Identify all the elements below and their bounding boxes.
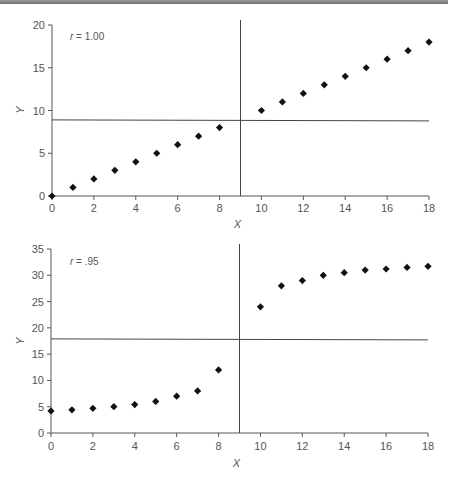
- correlation-annotation: r = 1.00: [70, 31, 105, 42]
- x-tick-label: 18: [422, 440, 434, 452]
- x-tick-label: 4: [133, 202, 139, 214]
- data-point-marker: [47, 407, 54, 414]
- y-tick-label: 30: [32, 269, 44, 281]
- data-point-marker: [110, 403, 117, 410]
- y-tick-label: 0: [38, 427, 44, 439]
- data-point-marker: [257, 303, 264, 310]
- x-tick-label: 10: [255, 202, 267, 214]
- chart-2: 05101520253035024681012141618XYr = .95: [14, 243, 434, 469]
- y-tick-label: 5: [38, 401, 44, 413]
- data-point-marker: [152, 398, 159, 405]
- mean-y-line: [52, 120, 429, 121]
- y-tick-label: 25: [32, 296, 44, 308]
- x-axis-title: X: [232, 457, 241, 469]
- x-tick-label: 8: [216, 202, 222, 214]
- data-point-marker: [195, 133, 202, 140]
- x-tick-label: 16: [380, 440, 392, 452]
- x-axis-title: X: [233, 218, 242, 230]
- data-point-marker: [48, 192, 55, 199]
- y-tick-label: 10: [32, 374, 44, 386]
- data-point-marker: [424, 263, 431, 270]
- x-tick-label: 0: [48, 440, 54, 452]
- x-tick-label: 0: [49, 202, 55, 214]
- x-tick-label: 12: [296, 440, 308, 452]
- data-point-marker: [111, 167, 118, 174]
- mean-y-line: [51, 339, 428, 340]
- y-tick-label: 35: [32, 243, 44, 255]
- x-tick-label: 12: [297, 202, 309, 214]
- data-point-marker: [278, 282, 285, 289]
- data-point-marker: [216, 124, 223, 131]
- data-point-marker: [279, 98, 286, 105]
- data-point-marker: [173, 393, 180, 400]
- x-tick-label: 14: [339, 202, 351, 214]
- data-point-marker: [153, 150, 160, 157]
- data-point-marker: [341, 269, 348, 276]
- y-tick-label: 10: [33, 105, 45, 117]
- data-point-marker: [363, 64, 370, 71]
- data-point-marker: [299, 277, 306, 284]
- x-tick-label: 18: [423, 202, 435, 214]
- y-tick-label: 20: [32, 322, 44, 334]
- data-point-marker: [258, 107, 265, 114]
- y-axis-title: Y: [14, 106, 26, 114]
- data-point-marker: [404, 47, 411, 54]
- y-tick-label: 5: [39, 147, 45, 159]
- x-tick-label: 16: [381, 202, 393, 214]
- x-tick-label: 6: [174, 440, 180, 452]
- data-point-marker: [321, 81, 328, 88]
- data-point-marker: [89, 405, 96, 412]
- data-point-marker: [320, 272, 327, 279]
- x-tick-label: 8: [215, 440, 221, 452]
- y-axis-title: Y: [14, 337, 26, 345]
- data-point-marker: [384, 56, 391, 63]
- data-point-marker: [383, 265, 390, 272]
- data-point-marker: [174, 141, 181, 148]
- data-point-marker: [342, 73, 349, 80]
- chart-1: 05101520024681012141618XYr = 1.00: [14, 19, 435, 230]
- data-point-marker: [300, 90, 307, 97]
- x-tick-label: 14: [338, 440, 350, 452]
- data-point-marker: [403, 264, 410, 271]
- data-point-marker: [215, 366, 222, 373]
- data-point-marker: [68, 406, 75, 413]
- correlation-annotation: r = .95: [70, 256, 99, 267]
- data-point-marker: [90, 175, 97, 182]
- y-tick-label: 15: [33, 62, 45, 74]
- x-tick-label: 4: [132, 440, 138, 452]
- data-point-marker: [131, 401, 138, 408]
- data-point-marker: [132, 158, 139, 165]
- data-point-marker: [425, 39, 432, 46]
- data-point-marker: [194, 387, 201, 394]
- scatter-plots: 05101520024681012141618XYr = 1.000510152…: [0, 0, 453, 488]
- data-point-marker: [362, 266, 369, 273]
- y-tick-label: 15: [32, 348, 44, 360]
- x-tick-label: 6: [175, 202, 181, 214]
- data-point-marker: [69, 184, 76, 191]
- x-tick-label: 10: [254, 440, 266, 452]
- y-tick-label: 0: [39, 190, 45, 202]
- y-tick-label: 20: [33, 19, 45, 31]
- x-tick-label: 2: [90, 440, 96, 452]
- x-tick-label: 2: [91, 202, 97, 214]
